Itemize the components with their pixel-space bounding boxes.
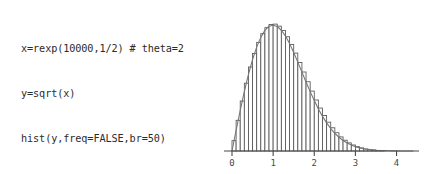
x-axis-tick-label: 3 [353, 158, 358, 168]
x-axis-tick-label: 0 [229, 158, 234, 168]
histogram-bar [290, 44, 294, 151]
histogram-bar [244, 83, 248, 151]
histogram-plot: 01234 [218, 0, 434, 174]
figure-container: x=rexp(10000,1/2) # theta=2 y=sqrt(x) hi… [0, 0, 434, 174]
histogram-bar [306, 82, 310, 151]
x-axis-tick-labels: 01234 [229, 158, 399, 168]
x-axis-tick-label: 1 [270, 158, 275, 168]
histogram-bar [302, 72, 306, 151]
histogram-bar [269, 25, 273, 151]
histogram-bar [285, 37, 289, 151]
histogram-bar [273, 24, 277, 151]
histogram-bar [265, 28, 269, 151]
histogram-bar [298, 62, 302, 151]
code-line-1: x=rexp(10000,1/2) # theta=2 [21, 41, 221, 56]
histogram-bar [323, 116, 327, 151]
histogram-bar [253, 54, 257, 151]
plot-canvas: 01234 [218, 0, 434, 174]
x-axis-ticks [232, 151, 397, 156]
histogram-bar [281, 31, 285, 151]
histogram-bar [277, 26, 281, 151]
histogram-bar [261, 34, 265, 151]
code-line-2: y=sqrt(x) [21, 86, 221, 101]
histogram-bar [257, 42, 261, 151]
code-line-3: hist(y,freq=FALSE,br=50) [21, 131, 221, 146]
x-axis-tick-label: 4 [394, 158, 399, 168]
histogram-bar [248, 67, 252, 151]
r-code-listing: x=rexp(10000,1/2) # theta=2 y=sqrt(x) hi… [21, 11, 221, 174]
x-axis: 01234 [224, 151, 419, 168]
histogram-bar [294, 53, 298, 151]
x-axis-tick-label: 2 [312, 158, 317, 168]
